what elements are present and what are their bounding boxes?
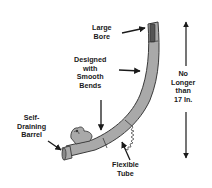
label-line: Bends [74, 82, 106, 91]
callout-arrows [48, 22, 186, 160]
snorkel-tube [62, 22, 159, 160]
smooth-bends-arrow [119, 70, 140, 71]
label-line: 17 In. [171, 96, 195, 105]
large-bore-arrow [122, 28, 145, 33]
self-draining-arrow [48, 141, 61, 150]
label-smooth-bends: Designed with Smooth Bends [74, 56, 106, 90]
label-self-draining-barrel: Self- Draining Barrel [17, 114, 46, 140]
label-line: Bore [92, 33, 112, 42]
self-draining-barrel [62, 146, 72, 160]
flexible-tube-arrow [122, 142, 130, 160]
label-line: Barrel [17, 131, 46, 140]
label-length: No Longer than 17 In. [171, 70, 195, 104]
label-line: Tube [112, 170, 139, 179]
label-flexible-tube: Flexible Tube [112, 161, 139, 178]
mouthpiece [71, 127, 92, 144]
snorkel-diagram: Large Bore Designed with Smooth Bends No… [0, 0, 212, 188]
label-large-bore: Large Bore [92, 24, 112, 41]
large-bore-opening [150, 24, 155, 42]
